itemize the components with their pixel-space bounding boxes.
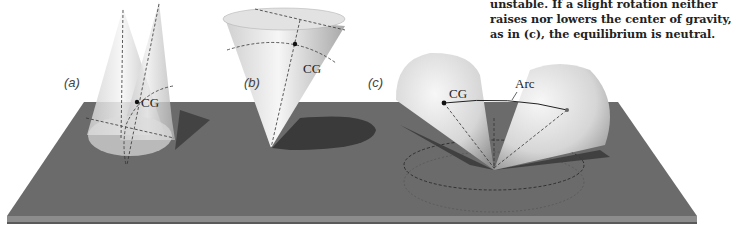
cg-label-a: CG [141,95,159,110]
arc-label-c: Arc [515,76,535,91]
cg-label-b: CG [303,61,321,76]
cg-dot-a [135,100,139,104]
cg-label-c: CG [449,86,467,101]
panel-label-b: (b) [244,75,260,90]
panel-label-a: (a) [64,75,80,90]
cg-dot-c-left [442,101,447,106]
panel-label-c: (c) [368,75,383,90]
cg-dot-b [293,42,297,46]
cg-dot-c-right [565,108,569,112]
